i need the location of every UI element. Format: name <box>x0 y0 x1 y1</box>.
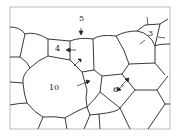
grain-label-4: 4 <box>55 45 60 53</box>
grain-label-3: 3 <box>148 30 153 38</box>
grain-boundaries <box>10 19 170 129</box>
grain-diagram <box>0 0 179 138</box>
grain-label-10: 10 <box>49 84 59 92</box>
grain-label-5: 5 <box>79 15 84 23</box>
grain-label-6: 6 <box>113 86 118 94</box>
